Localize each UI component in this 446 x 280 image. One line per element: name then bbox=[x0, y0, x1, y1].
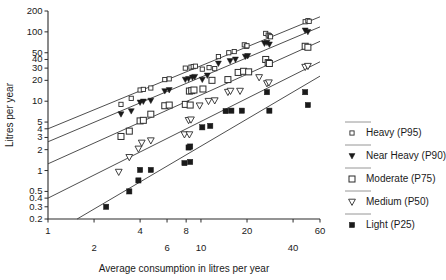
data-point-moderate-p75 bbox=[200, 86, 206, 92]
data-point-heavy-p95 bbox=[163, 77, 167, 81]
data-point-medium-p50 bbox=[205, 98, 212, 104]
y-tick-label: 200 bbox=[27, 5, 43, 16]
data-point-heavy-p95 bbox=[268, 35, 272, 39]
data-point-heavy-p95 bbox=[200, 67, 204, 71]
data-point-light-p25 bbox=[188, 159, 193, 164]
data-point-heavy-p95 bbox=[149, 86, 153, 90]
fit-line-light-p25 bbox=[77, 76, 320, 219]
data-point-heavy-p95 bbox=[141, 87, 145, 91]
legend-marker-filled-triangle-down bbox=[349, 154, 355, 159]
y-tick-label: 1 bbox=[37, 165, 42, 176]
data-point-moderate-p75 bbox=[266, 60, 272, 66]
data-point-medium-p50 bbox=[196, 103, 203, 109]
data-point-heavy-p95 bbox=[307, 19, 311, 23]
data-point-light-p25 bbox=[136, 178, 141, 183]
x-tick-label: 60 bbox=[315, 225, 326, 236]
data-point-light-p25 bbox=[200, 125, 205, 130]
data-point-medium-p50 bbox=[115, 169, 122, 175]
data-point-near-heavy-p90 bbox=[118, 112, 124, 117]
data-point-near-heavy-p90 bbox=[227, 59, 233, 64]
y-tick-label: 10 bbox=[32, 95, 43, 106]
data-point-moderate-p75 bbox=[118, 133, 124, 139]
data-point-medium-p50 bbox=[237, 88, 244, 94]
data-point-heavy-p95 bbox=[245, 44, 249, 48]
y-tick-label: 2 bbox=[37, 144, 42, 155]
data-point-heavy-p95 bbox=[216, 54, 220, 58]
legend-marker-open-square-small bbox=[350, 131, 354, 135]
x-tick-label: 10 bbox=[196, 242, 207, 253]
chart-figure: 0.20.30.40.51234510203040501002001246810… bbox=[0, 0, 446, 280]
x-tick-label: 2 bbox=[91, 242, 96, 253]
data-point-near-heavy-p90 bbox=[215, 61, 221, 66]
x-tick-label: 1 bbox=[45, 225, 50, 236]
data-point-heavy-p95 bbox=[129, 96, 133, 100]
data-point-medium-p50 bbox=[186, 132, 193, 138]
legend-marker-open-triangle-down bbox=[349, 199, 356, 205]
y-axis-title: Litres per year bbox=[4, 82, 15, 147]
legend-label: Heavy (P95) bbox=[366, 127, 422, 138]
legend-marker-open-square bbox=[349, 176, 355, 182]
data-point-light-p25 bbox=[137, 167, 142, 172]
data-point-moderate-p75 bbox=[305, 44, 311, 50]
data-point-light-p25 bbox=[148, 167, 153, 172]
data-point-moderate-p75 bbox=[209, 77, 215, 83]
data-point-near-heavy-p90 bbox=[128, 109, 134, 114]
data-point-light-p25 bbox=[264, 90, 269, 95]
data-point-medium-p50 bbox=[126, 155, 133, 161]
y-tick-label: 0.5 bbox=[29, 185, 42, 196]
data-point-moderate-p75 bbox=[126, 128, 132, 134]
legend-marker-filled-square bbox=[349, 222, 354, 227]
data-point-moderate-p75 bbox=[166, 102, 172, 108]
data-point-near-heavy-p90 bbox=[199, 77, 205, 82]
data-point-heavy-p95 bbox=[227, 51, 231, 55]
data-point-heavy-p95 bbox=[232, 49, 236, 53]
y-tick-label: 5 bbox=[37, 116, 42, 127]
x-tick-label: 8 bbox=[183, 225, 188, 236]
data-point-light-p25 bbox=[182, 161, 187, 166]
y-tick-label: 50 bbox=[32, 47, 43, 58]
data-point-heavy-p95 bbox=[167, 77, 171, 81]
data-point-light-p25 bbox=[303, 90, 308, 95]
x-tick-label: 6 bbox=[164, 242, 169, 253]
data-point-light-p25 bbox=[239, 108, 244, 113]
data-point-light-p25 bbox=[127, 189, 132, 194]
fit-line-heavy-p95 bbox=[48, 17, 320, 129]
data-point-moderate-p75 bbox=[140, 117, 146, 123]
data-point-light-p25 bbox=[188, 144, 193, 149]
scatter-plot-canvas: 0.20.30.40.51234510203040501002001246810… bbox=[0, 0, 446, 280]
data-point-medium-p50 bbox=[256, 75, 263, 81]
x-tick-label: 4 bbox=[137, 225, 142, 236]
data-point-light-p25 bbox=[223, 108, 228, 113]
y-tick-label: 100 bbox=[27, 26, 43, 37]
data-point-light-p25 bbox=[305, 102, 310, 107]
y-tick-label: 20 bbox=[32, 74, 43, 85]
data-point-heavy-p95 bbox=[119, 102, 123, 106]
data-point-light-p25 bbox=[104, 204, 109, 209]
axis-lines bbox=[48, 11, 320, 219]
data-point-near-heavy-p90 bbox=[148, 98, 154, 103]
data-point-moderate-p75 bbox=[148, 111, 154, 117]
fit-line-near-heavy-p90 bbox=[48, 27, 320, 142]
data-point-moderate-p75 bbox=[191, 87, 197, 93]
data-point-medium-p50 bbox=[147, 138, 154, 144]
data-point-heavy-p95 bbox=[193, 64, 197, 68]
x-tick-label: 20 bbox=[242, 225, 253, 236]
x-tick-label: 40 bbox=[288, 242, 299, 253]
data-point-moderate-p75 bbox=[246, 69, 252, 75]
data-point-heavy-p95 bbox=[213, 67, 217, 71]
data-point-light-p25 bbox=[229, 108, 234, 113]
data-point-moderate-p75 bbox=[187, 102, 193, 108]
data-point-light-p25 bbox=[208, 123, 213, 128]
data-point-moderate-p75 bbox=[225, 77, 231, 83]
legend-label: Near Heavy (P90) bbox=[366, 150, 446, 161]
data-point-light-p25 bbox=[267, 108, 272, 113]
data-point-medium-p50 bbox=[138, 140, 145, 146]
legend-label: Light (P25) bbox=[366, 219, 415, 230]
legend-label: Moderate (P75) bbox=[366, 173, 435, 184]
fit-line-medium-p50 bbox=[48, 62, 320, 198]
y-tick-label: 0.2 bbox=[29, 213, 42, 224]
legend-label: Medium (P50) bbox=[366, 196, 429, 207]
data-point-heavy-p95 bbox=[207, 66, 211, 70]
data-point-heavy-p95 bbox=[183, 66, 187, 70]
x-axis-title: Average consumption in litres per year bbox=[99, 263, 270, 274]
